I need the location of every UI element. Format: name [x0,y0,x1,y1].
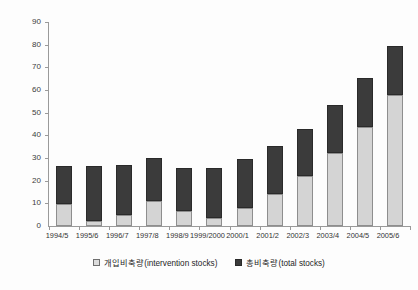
y-axis-tick-label: 10 [15,199,41,207]
x-axis-tick-mark [79,226,80,230]
x-axis-tick-mark [350,226,351,230]
plot-area: 0102030405060708090 [48,22,410,227]
legend-item[interactable]: 개입비축량(intervention stocks) [93,256,217,268]
stacked-bar-chart: (단위: 백만M/T) 0102030405060708090 1994/519… [0,0,418,290]
bar-segment-intervention-stocks[interactable] [357,127,373,226]
stacked-bar[interactable] [116,165,132,226]
stacked-bar[interactable] [327,105,343,226]
bar-segment-total-stocks[interactable] [206,168,222,218]
bar-segment-intervention-stocks[interactable] [176,211,192,226]
bar-segment-total-stocks[interactable] [86,166,102,222]
y-axis-tick-label: 90 [15,18,41,26]
bar-segment-total-stocks[interactable] [116,165,132,215]
chart-legend: 개입비축량(intervention stocks)총비축량(total sto… [0,256,418,268]
bar-segment-total-stocks[interactable] [327,105,343,154]
stacked-bar[interactable] [387,46,403,226]
y-axis-tick-label: 50 [15,109,41,117]
bar-segment-intervention-stocks[interactable] [267,194,283,226]
x-axis-tick-mark [320,226,321,230]
x-axis-tick-mark [49,226,50,230]
x-axis-tick-mark [230,226,231,230]
bar-segment-total-stocks[interactable] [387,46,403,95]
bar-segment-total-stocks[interactable] [267,146,283,195]
bar-segment-intervention-stocks[interactable] [327,153,343,226]
stacked-bar[interactable] [176,168,192,226]
stacked-bar[interactable] [267,146,283,226]
bar-segment-intervention-stocks[interactable] [387,95,403,226]
x-axis-tick-label: 2005/6 [367,231,409,241]
stacked-bar[interactable] [237,159,253,226]
bar-segment-total-stocks[interactable] [297,129,313,177]
bar-segment-total-stocks[interactable] [146,158,162,201]
x-axis-tick-mark [109,226,110,230]
stacked-bar[interactable] [86,166,102,226]
y-axis-tick-label: 20 [15,177,41,185]
bar-segment-intervention-stocks[interactable] [56,204,72,226]
x-axis-tick-mark [410,226,411,230]
y-axis-tick-label: 60 [15,86,41,94]
bar-segment-intervention-stocks[interactable] [206,218,222,226]
stacked-bar[interactable] [297,129,313,226]
legend-swatch-icon [93,259,100,266]
legend-item-label: 개입비축량(intervention stocks) [104,256,217,268]
y-axis-tick-label: 40 [15,131,41,139]
bar-segment-intervention-stocks[interactable] [86,221,102,226]
x-axis-tick-mark [260,226,261,230]
x-axis-tick-mark [290,226,291,230]
y-axis-tick-label: 70 [15,63,41,71]
bar-segment-intervention-stocks[interactable] [116,215,132,226]
bar-series-group [49,22,410,226]
legend-swatch-icon [235,259,242,266]
stacked-bar[interactable] [56,166,72,226]
bar-segment-total-stocks[interactable] [56,166,72,205]
legend-item[interactable]: 총비축량(total stocks) [235,256,324,268]
y-axis-tick-label: 0 [15,222,41,230]
x-axis-tick-mark [380,226,381,230]
stacked-bar[interactable] [206,168,222,226]
x-axis-tick-mark [169,226,170,230]
x-axis-tick-mark [139,226,140,230]
stacked-bar[interactable] [357,78,373,226]
stacked-bar[interactable] [146,158,162,226]
y-axis-tick-label: 30 [15,154,41,162]
bar-segment-total-stocks[interactable] [357,78,373,128]
y-axis-tick-label: 80 [15,41,41,49]
legend-item-label: 총비축량(total stocks) [246,256,324,268]
bar-segment-intervention-stocks[interactable] [297,176,313,226]
bar-segment-intervention-stocks[interactable] [146,201,162,226]
bar-segment-total-stocks[interactable] [237,159,253,208]
bar-segment-total-stocks[interactable] [176,168,192,211]
bar-segment-intervention-stocks[interactable] [237,208,253,226]
x-axis-tick-labels: 1994/51995/61996/71997/81998/91999/20002… [48,231,410,245]
x-axis-tick-mark [199,226,200,230]
